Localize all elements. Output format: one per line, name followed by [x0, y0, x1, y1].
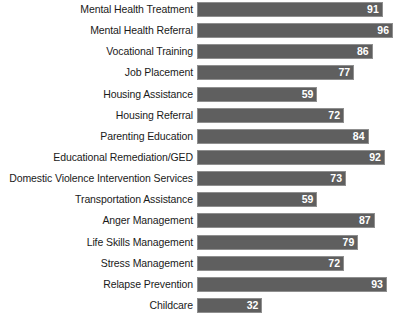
- bar-track: 32: [197, 298, 262, 313]
- bar: 86: [197, 44, 373, 59]
- category-label: Relapse Prevention: [0, 277, 193, 292]
- bar-track: 79: [197, 235, 358, 250]
- bar-value-label: 72: [328, 256, 343, 271]
- category-label: Educational Remediation/GED: [0, 150, 193, 165]
- bar: 59: [197, 87, 317, 102]
- bar-track: 92: [197, 150, 385, 165]
- category-label: Domestic Violence Intervention Services: [0, 171, 193, 186]
- bar-track: 93: [197, 277, 387, 292]
- bar-row: Parenting Education84: [0, 129, 401, 144]
- horizontal-bar-chart: Mental Health Treatment91Mental Health R…: [0, 0, 401, 322]
- bar-value-label: 96: [377, 23, 392, 38]
- category-label: Anger Management: [0, 213, 193, 228]
- bar-row: Childcare32: [0, 298, 401, 313]
- bar-track: 96: [197, 23, 393, 38]
- bar-value-label: 73: [330, 171, 345, 186]
- bar-value-label: 59: [302, 87, 317, 102]
- bar-track: 73: [197, 171, 346, 186]
- bar-row: Stress Management72: [0, 256, 401, 271]
- category-label: Childcare: [0, 298, 193, 313]
- category-label: Stress Management: [0, 256, 193, 271]
- bar-track: 84: [197, 129, 369, 144]
- category-label: Life Skills Management: [0, 235, 193, 250]
- bar-row: Transportation Assistance59: [0, 192, 401, 207]
- bar-row: Domestic Violence Intervention Services7…: [0, 171, 401, 186]
- bar-track: 91: [197, 2, 383, 17]
- bar: 32: [197, 298, 262, 313]
- bar: 72: [197, 256, 344, 271]
- bar: 87: [197, 213, 375, 228]
- bar: 91: [197, 2, 383, 17]
- bar-track: 77: [197, 65, 354, 80]
- bar: 59: [197, 192, 317, 207]
- category-label: Mental Health Treatment: [0, 2, 193, 17]
- bar: 73: [197, 171, 346, 186]
- bar-track: 59: [197, 192, 317, 207]
- category-label: Job Placement: [0, 65, 193, 80]
- bar-row: Life Skills Management79: [0, 235, 401, 250]
- bar-value-label: 59: [302, 192, 317, 207]
- bar-track: 86: [197, 44, 373, 59]
- bar-row: Mental Health Treatment91: [0, 2, 401, 17]
- category-label: Mental Health Referral: [0, 23, 193, 38]
- category-label: Housing Referral: [0, 108, 193, 123]
- category-label: Transportation Assistance: [0, 192, 193, 207]
- bar-value-label: 84: [353, 129, 368, 144]
- bar-track: 87: [197, 213, 375, 228]
- category-label: Housing Assistance: [0, 87, 193, 102]
- bar: 84: [197, 129, 369, 144]
- bar-value-label: 72: [328, 108, 343, 123]
- category-label: Vocational Training: [0, 44, 193, 59]
- bar: 79: [197, 235, 358, 250]
- bar: 96: [197, 23, 393, 38]
- bar-value-label: 79: [343, 235, 358, 250]
- bar-value-label: 91: [367, 2, 382, 17]
- bar-value-label: 93: [371, 277, 386, 292]
- bar-row: Mental Health Referral96: [0, 23, 401, 38]
- bar-value-label: 86: [357, 44, 372, 59]
- bar-row: Job Placement77: [0, 65, 401, 80]
- bar-row: Vocational Training86: [0, 44, 401, 59]
- bar-row: Housing Assistance59: [0, 87, 401, 102]
- bar-row: Relapse Prevention93: [0, 277, 401, 292]
- bar-row: Educational Remediation/GED92: [0, 150, 401, 165]
- bar-row: Housing Referral72: [0, 108, 401, 123]
- bar: 72: [197, 108, 344, 123]
- bar-value-label: 77: [339, 65, 354, 80]
- bar: 93: [197, 277, 387, 292]
- bar-track: 59: [197, 87, 317, 102]
- category-label: Parenting Education: [0, 129, 193, 144]
- bar: 92: [197, 150, 385, 165]
- bar-track: 72: [197, 108, 344, 123]
- bar: 77: [197, 65, 354, 80]
- bar-value-label: 92: [369, 150, 384, 165]
- bar-row: Anger Management87: [0, 213, 401, 228]
- bar-track: 72: [197, 256, 344, 271]
- bar-value-label: 87: [359, 213, 374, 228]
- bar-value-label: 32: [247, 298, 262, 313]
